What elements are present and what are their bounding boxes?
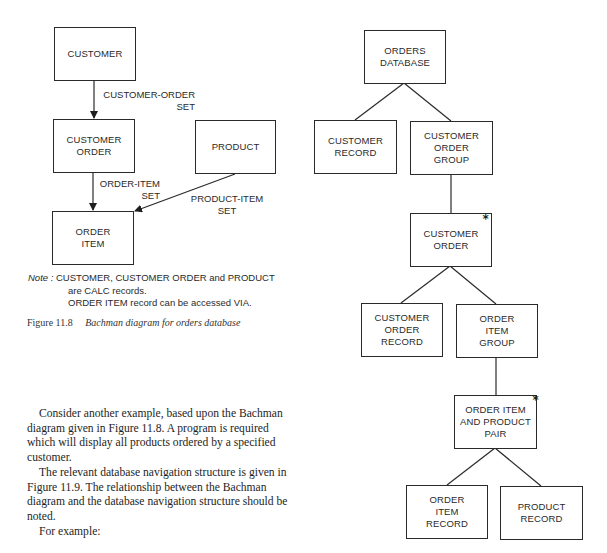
body-paragraph-3: For example: xyxy=(27,525,297,540)
customer-order-entity-label: CUSTOMER ORDER xyxy=(67,134,122,158)
product-item-set-label: PRODUCT-ITEM SET xyxy=(186,193,268,217)
note-line-1: CUSTOMER, CUSTOMER ORDER and PRODUCT xyxy=(56,272,275,283)
customer-order-label: CUSTOMER ORDER xyxy=(424,228,479,252)
product-record-label: PRODUCT RECORD xyxy=(518,501,566,525)
figure-11-8-caption: Figure 11.8 Bachman diagram for orders d… xyxy=(27,317,257,329)
order-item-record-node: ORDER ITEM RECORD xyxy=(406,485,488,539)
note-line-3: ORDER ITEM record can be accessed VIA. xyxy=(28,297,275,310)
order-item-product-pair-node: ORDER ITEM AND PRODUCT PAIR * xyxy=(454,395,537,449)
customer-entity-label: CUSTOMER xyxy=(68,48,123,60)
product-entity-label: PRODUCT xyxy=(212,141,260,153)
body-text: Consider another example, based upon the… xyxy=(27,407,297,539)
customer-record-node: CUSTOMER RECORD xyxy=(314,120,397,174)
customer-record-label: CUSTOMER RECORD xyxy=(328,135,383,159)
orders-database-node: ORDERS DATABASE xyxy=(364,30,446,84)
product-record-node: PRODUCT RECORD xyxy=(500,486,583,540)
iteration-asterisk-icon: * xyxy=(483,213,489,225)
order-item-record-label: ORDER ITEM RECORD xyxy=(426,494,468,530)
order-item-product-pair-label: ORDER ITEM AND PRODUCT PAIR xyxy=(460,404,531,440)
body-paragraph-1: Consider another example, based upon the… xyxy=(27,407,297,466)
order-item-entity-box: ORDER ITEM xyxy=(52,211,134,265)
customer-order-entity-box: CUSTOMER ORDER xyxy=(53,119,135,173)
customer-order-group-label: CUSTOMER ORDER GROUP xyxy=(424,130,479,166)
customer-entity-box: CUSTOMER xyxy=(54,27,136,81)
customer-order-set-label: CUSTOMER-ORDER SET xyxy=(97,89,195,113)
order-item-group-node: ORDER ITEM GROUP xyxy=(456,304,538,358)
order-item-entity-label: ORDER ITEM xyxy=(76,226,111,250)
order-item-group-label: ORDER ITEM GROUP xyxy=(479,313,514,349)
diagram-note: Note : CUSTOMER, CUSTOMER ORDER and PROD… xyxy=(28,272,275,310)
note-key: Note : xyxy=(28,272,53,283)
body-paragraph-2: The relevant database navigation structu… xyxy=(27,466,297,525)
product-entity-box: PRODUCT xyxy=(195,120,276,174)
customer-order-group-node: CUSTOMER ORDER GROUP xyxy=(410,121,493,175)
figure-number: Figure 11.8 xyxy=(27,317,73,328)
note-line-2: are CALC records. xyxy=(28,285,275,298)
iteration-asterisk-icon: * xyxy=(533,394,539,406)
customer-order-record-label: CUSTOMER ORDER RECORD xyxy=(375,312,430,348)
orders-database-label: ORDERS DATABASE xyxy=(380,45,430,69)
order-item-set-label: ORDER-ITEM SET xyxy=(95,178,160,202)
customer-order-node: CUSTOMER ORDER * xyxy=(410,213,492,267)
customer-order-record-node: CUSTOMER ORDER RECORD xyxy=(361,303,443,357)
figure-title: Bachman diagram for orders database xyxy=(85,317,240,328)
